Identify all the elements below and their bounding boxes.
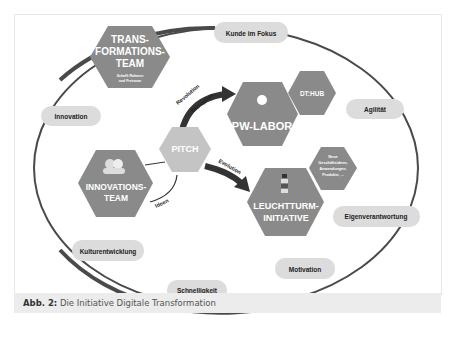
hex-innovations-team: INNOVATIONS- TEAM <box>78 150 153 217</box>
disruption-label: Disruption <box>190 91 215 114</box>
figure-caption: Abb. 2: Die Initiative Digitale Transfor… <box>14 293 441 313</box>
svg-text:INITIATIVE: INITIATIVE <box>263 213 308 223</box>
svg-text:TEAM: TEAM <box>104 193 128 203</box>
pill-kulturentwicklung: Kulturentwicklung <box>72 240 144 261</box>
svg-text:Eigenverantwortung: Eigenverantwortung <box>345 213 408 221</box>
svg-text:TEAM: TEAM <box>116 58 144 69</box>
pill-motivation: Motivation <box>275 258 335 279</box>
svg-text:Anwendungen,: Anwendungen, <box>319 167 346 171</box>
svg-text:PITCH: PITCH <box>172 144 199 154</box>
pill-eigenverantwortung: Eigenverantwortung <box>333 206 420 227</box>
svg-text:FORMATIONS-: FORMATIONS- <box>95 46 165 57</box>
svg-text:Kulturentwicklung: Kulturentwicklung <box>80 248 137 256</box>
svg-text:LEUCHTTURM-: LEUCHTTURM- <box>253 201 319 211</box>
caption-text: Die Initiative Digitale Transformation <box>57 298 216 308</box>
svg-text:Neue: Neue <box>328 155 337 159</box>
svg-text:DT:HUB: DT:HUB <box>300 90 324 97</box>
svg-text:INNOVATIONS-: INNOVATIONS- <box>86 182 147 192</box>
pill-kunde-im-fokus: Kunde im Fokus <box>214 22 288 43</box>
hex-leuchtturm-initiative: LEUCHTTURM- INITIATIVE <box>247 168 324 236</box>
gear-icon <box>257 95 267 105</box>
pill-agilitaet: Agilität <box>346 99 404 119</box>
hex-pw-labor: PW-LABOR <box>227 82 298 146</box>
transformation-diagram: Revolution Disruption Evolution Ideen TR… <box>0 0 453 338</box>
hex-dt-hub: DT:HUB <box>288 71 336 115</box>
svg-text:PW-LABOR: PW-LABOR <box>232 120 292 132</box>
svg-text:Innovation: Innovation <box>55 113 88 120</box>
hex-pitch: PITCH <box>159 127 211 172</box>
hex-neue-geschaeftsideen: Neue Geschäftsideen, Anwendungen, Produk… <box>309 147 357 190</box>
svg-text:Schafft Rahmen: Schafft Rahmen <box>117 74 144 78</box>
ideen-label: Ideen <box>154 197 170 209</box>
hex-transformations-team: TRANS- FORMATIONS- TEAM Schafft Rahmen u… <box>90 26 170 88</box>
svg-text:Produkte, ...: Produkte, ... <box>322 173 344 177</box>
svg-text:Kunde im Fokus: Kunde im Fokus <box>226 30 277 37</box>
svg-text:TRANS-: TRANS- <box>111 34 149 45</box>
svg-text:Motivation: Motivation <box>289 266 322 273</box>
caption-label: Abb. 2: <box>23 298 57 308</box>
pill-innovation: Innovation <box>41 106 101 126</box>
svg-text:und Freiraum: und Freiraum <box>119 79 141 83</box>
svg-text:Geschäftsideen,: Geschäftsideen, <box>318 161 347 165</box>
svg-text:Agilität: Agilität <box>364 106 387 114</box>
lighthouse-icon <box>282 174 287 178</box>
